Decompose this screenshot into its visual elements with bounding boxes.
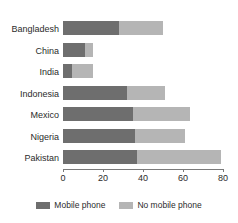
bar-segment [63,150,137,164]
bar-segment [133,107,190,121]
legend-item[interactable]: Mobile phone [36,200,105,210]
bar-segment [63,64,72,78]
bar-segment [127,86,165,100]
bar-row [63,129,185,143]
bar-row [63,43,93,57]
bar-segment [63,43,85,57]
y-axis-label-pakistan: Pakistan [0,153,59,163]
legend-item[interactable]: No mobile phone [119,200,201,210]
legend-swatch-icon [119,202,133,209]
chart-legend: Mobile phoneNo mobile phone [0,200,238,210]
x-tick [63,169,64,172]
bar-segment [63,129,135,143]
bar-segment [63,107,133,121]
y-axis-label-mexico: Mexico [0,110,59,120]
x-tick [103,169,104,172]
bar-segment [63,86,127,100]
bar-segment [119,21,163,35]
bar-segment [63,21,119,35]
y-axis-label-nigeria: Nigeria [0,132,59,142]
y-axis-label-china: China [0,46,59,56]
legend-swatch-icon [36,202,50,209]
bar-row [63,86,165,100]
x-tick-label: 20 [98,173,108,183]
y-axis-label-bangladesh: Bangladesh [0,24,59,34]
bar-segment [85,43,93,57]
x-tick-label: 80 [218,173,228,183]
x-tick-label: 0 [60,173,65,183]
plot-area: BangladeshChinaIndiaIndonesiaMexicoNiger… [0,0,238,223]
bar-segment [135,129,185,143]
legend-label: No mobile phone [137,200,201,210]
bar-row [63,64,93,78]
bar-row [63,107,190,121]
x-tick [223,169,224,172]
x-tick-label: 40 [138,173,148,183]
x-tick-label: 60 [178,173,188,183]
x-tick [183,169,184,172]
legend-label: Mobile phone [54,200,105,210]
bar-row [63,21,163,35]
bar-segment [137,150,221,164]
y-axis-label-india: India [0,67,59,77]
y-axis-label-indonesia: Indonesia [0,89,59,99]
bar-chart: BangladeshChinaIndiaIndonesiaMexicoNiger… [0,0,238,223]
x-tick [143,169,144,172]
bar-row [63,150,221,164]
bar-segment [72,64,93,78]
